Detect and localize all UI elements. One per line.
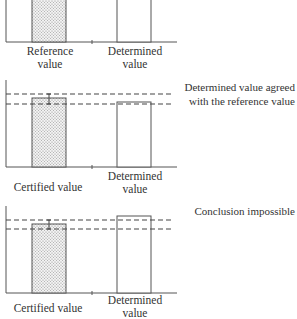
panel-3 xyxy=(6,206,177,295)
conclusion-note: Conclusion impossible xyxy=(155,204,295,218)
label-line: value xyxy=(96,183,174,196)
label-line: Determined xyxy=(96,45,174,58)
determined-bar xyxy=(117,216,151,293)
determined-value-label: Determined value xyxy=(96,45,174,71)
determined-bar xyxy=(117,102,151,167)
certified-bar xyxy=(32,224,66,293)
label-line: Determined xyxy=(96,170,174,183)
note-line: Determined value agreed xyxy=(155,80,295,94)
certified-value-label: Certified value xyxy=(2,302,94,315)
panel-1 xyxy=(6,0,177,44)
label-line: Reference xyxy=(14,45,86,58)
certified-value-label: Certified value xyxy=(2,181,94,194)
certified-bar xyxy=(32,98,66,167)
determined-value-label: Determined value xyxy=(96,294,174,319)
note-line: with the reference value xyxy=(155,94,295,108)
determined-value-label: Determined value xyxy=(96,170,174,196)
reference-bar xyxy=(32,0,66,42)
reference-value-label: Reference value xyxy=(14,45,86,71)
label-line: value xyxy=(96,58,174,71)
label-line: Determined xyxy=(96,294,174,307)
label-line: value xyxy=(14,58,86,71)
label-line: value xyxy=(96,307,174,319)
panel-2 xyxy=(6,80,177,169)
determined-bar xyxy=(117,0,151,42)
agreement-note: Determined value agreed with the referen… xyxy=(155,80,295,108)
